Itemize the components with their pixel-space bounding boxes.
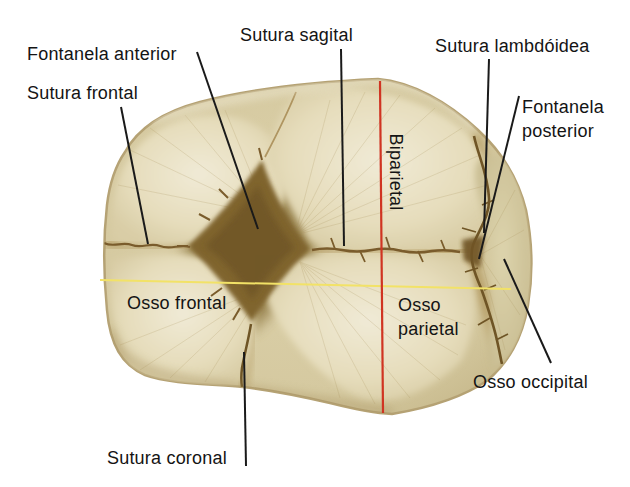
label-sutura-sagital: Sutura sagital xyxy=(240,23,353,47)
skull-illustration xyxy=(0,0,630,487)
label-fontanela-anterior: Fontanela anterior xyxy=(27,42,177,66)
label-sutura-lambdoidea: Sutura lambdóidea xyxy=(435,34,590,58)
label-osso-parietal: Osso parietal xyxy=(398,293,476,341)
label-biparietal: Biparietal xyxy=(384,133,408,210)
anatomy-figure: Fontanela anterior Sutura frontal Sutura… xyxy=(0,0,630,487)
label-osso-occipital: Osso occipital xyxy=(473,370,588,394)
label-fontanela-posterior: Fontanela posterior xyxy=(522,95,614,143)
label-sutura-frontal: Sutura frontal xyxy=(27,81,138,105)
label-sutura-coronal: Sutura coronal xyxy=(107,446,227,470)
label-osso-frontal: Osso frontal xyxy=(127,291,226,315)
